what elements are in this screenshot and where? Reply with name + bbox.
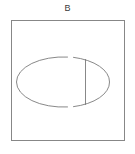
ellipse-arc-upper-left (16, 57, 67, 107)
figure-panel: B (0, 0, 135, 154)
ellipse-arc-right (74, 57, 110, 106)
figure-canvas (0, 0, 135, 154)
panel-border (12, 21, 125, 141)
